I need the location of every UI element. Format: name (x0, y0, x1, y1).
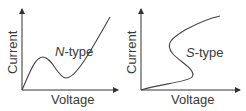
s-type-panel: S-type Voltage Current (124, 9, 240, 107)
y-axis-label: Current (124, 30, 139, 74)
s-type-label: S-type (186, 45, 224, 60)
x-axis-label: Voltage (51, 92, 94, 107)
y-axis-label: Current (5, 30, 20, 74)
x-axis-label: Voltage (171, 92, 214, 107)
negative-resistance-diagram: N-type Voltage Current S-type Voltage Cu… (0, 0, 246, 111)
n-type-panel: N-type Voltage Current (5, 9, 118, 107)
n-type-label: N-type (55, 44, 93, 59)
